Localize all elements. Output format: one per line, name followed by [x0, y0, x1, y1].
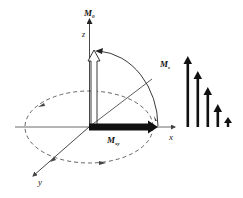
mxy-label: Mxy	[106, 135, 121, 146]
decay-bars	[184, 56, 233, 127]
x-axis-label: x	[168, 132, 173, 142]
y-axis-label: y	[37, 177, 42, 187]
decay-bar-4	[214, 104, 223, 127]
decay-bar-2	[194, 71, 203, 127]
decay-bar-1	[184, 56, 193, 127]
mz-label: Mz	[159, 59, 170, 70]
ellipse-arrow-left-icon	[38, 103, 45, 107]
z-axis-label: z	[81, 30, 86, 39]
decay-bar-3	[204, 87, 213, 127]
m0-label: M0	[83, 8, 95, 19]
decay-bar-5	[224, 117, 232, 127]
mz-diagonal-line	[89, 79, 152, 127]
rotation-arc	[99, 51, 158, 126]
arc-small-arrow-icon	[154, 116, 157, 121]
mxy-vector-arrow-icon	[89, 121, 158, 134]
magnetization-diagram: x y z M0 Mz Mxy	[0, 0, 243, 198]
